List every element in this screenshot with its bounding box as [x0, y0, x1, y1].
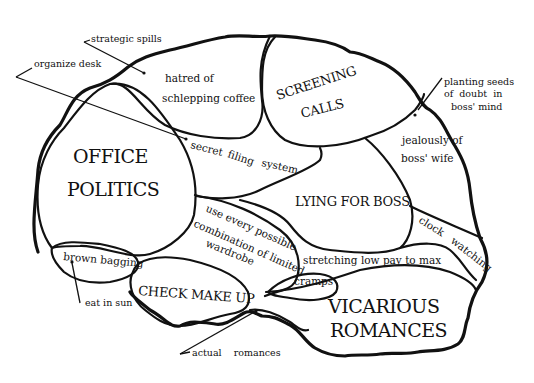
leader-eat-in-sun [72, 263, 80, 303]
annotation-organize-desk: organize desk [34, 58, 101, 69]
label-screening: SCREENING [274, 63, 358, 103]
label-politics: POLITICS [67, 178, 159, 200]
label-boss-wife: boss' wife [401, 152, 454, 164]
leader-strategic-spills-tip [84, 40, 90, 42]
label-lying-for-boss: LYING FOR BOSS [295, 194, 410, 209]
dot-organize-desk [184, 137, 187, 140]
label-schlepping-coffee: schlepping coffee [162, 92, 255, 104]
label-system: system [261, 156, 300, 175]
label-filing: filing [226, 147, 256, 167]
label-calls: CALLS [299, 96, 345, 121]
label-check-make-up: CHECK MAKE UP [138, 283, 256, 306]
annotation-planting-seeds-1: planting seeds [444, 76, 514, 87]
brain-diagram: OFFICE POLITICS SCREENING CALLS LYING FO… [0, 0, 534, 383]
annotation-planting-seeds-3: boss' mind [451, 101, 502, 112]
label-secret: secret [190, 138, 226, 158]
leader-planting-seeds [418, 78, 442, 110]
label-jealously-of: jealously of [400, 134, 464, 146]
label-brown-bagging: brown bagging [63, 250, 144, 269]
annotation-eat-in-sun: eat in sun [85, 297, 132, 308]
leader-organize-desk [16, 77, 186, 139]
label-hatred-of: hatred of [165, 72, 215, 84]
annotation-strategic-spills: strategic spills [91, 33, 162, 44]
label-stretching-pay: stretching low pay to max [303, 254, 441, 266]
label-cramps: cramps [294, 275, 333, 287]
label-office: OFFICE [73, 145, 148, 167]
dot-planting-seeds [413, 113, 416, 116]
dot-strategic-spills [142, 71, 145, 74]
label-vicarious: VICARIOUS [327, 295, 439, 317]
dot-actual-romances [254, 309, 257, 312]
label-romances: ROMANCES [330, 319, 447, 341]
annotation-planting-seeds-2: of doubt in [444, 88, 502, 99]
region-office-politics [38, 84, 196, 256]
leader-organize-desk-tip [16, 68, 32, 77]
annotation-actual-romances: actual romances [192, 347, 281, 358]
